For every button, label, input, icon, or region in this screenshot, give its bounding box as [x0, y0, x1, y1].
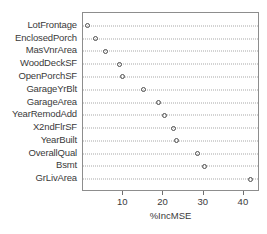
y-axis-label: Bsmt	[56, 160, 77, 170]
gridline-row	[83, 76, 258, 77]
variable-importance-chart: GrLivAreaBsmtOverallQualYearBuiltX2ndFlr…	[0, 0, 267, 234]
y-axis-label: MasVnrArea	[26, 45, 77, 55]
y-axis-label: GarageYrBlt	[26, 84, 77, 94]
data-point	[248, 177, 253, 182]
x-axis-tick	[122, 191, 123, 195]
data-point	[171, 126, 176, 131]
x-axis-title: %IncMSE	[82, 210, 259, 221]
y-axis-label: OpenPorchSF	[18, 71, 77, 81]
gridline-row	[83, 51, 258, 52]
y-axis-label: YearBuilt	[41, 135, 77, 145]
data-point	[85, 23, 90, 28]
data-point	[174, 138, 179, 143]
data-point	[156, 100, 161, 105]
gridline-row	[83, 166, 258, 167]
x-axis-tick-label: 10	[117, 196, 128, 207]
gridline-row	[83, 115, 258, 116]
gridline-row	[83, 64, 258, 65]
x-axis-tick-label: 20	[157, 196, 168, 207]
x-axis-tick-label: 30	[197, 196, 208, 207]
y-axis-label: GarageArea	[27, 97, 77, 107]
x-axis-tick-label: 40	[238, 196, 249, 207]
x-axis-tick	[243, 191, 244, 195]
gridline-row	[83, 140, 258, 141]
y-axis-label: GrLivArea	[36, 173, 77, 183]
plot-panel	[82, 12, 259, 191]
data-point	[141, 87, 146, 92]
data-point	[103, 49, 108, 54]
gridline-row	[83, 179, 258, 180]
plot-area	[83, 13, 258, 190]
y-axis-label: OverallQual	[28, 148, 77, 158]
data-point	[120, 74, 125, 79]
data-point	[195, 151, 200, 156]
data-point	[93, 36, 98, 41]
x-axis-tick	[162, 191, 163, 195]
y-axis-label: LotFrontage	[27, 20, 77, 30]
y-axis-label: WoodDeckSF	[20, 58, 77, 68]
y-axis-label: EnclosedPorch	[15, 33, 77, 43]
y-axis-label: X2ndFlrSF	[33, 122, 77, 132]
data-point	[117, 62, 122, 67]
gridline-row	[83, 89, 258, 90]
data-point	[162, 113, 167, 118]
gridline-row	[83, 25, 258, 26]
data-point	[202, 164, 207, 169]
y-axis-category-labels: GrLivAreaBsmtOverallQualYearBuiltX2ndFlr…	[0, 0, 80, 234]
gridline-row	[83, 153, 258, 154]
x-axis-tick	[203, 191, 204, 195]
gridline-row	[83, 102, 258, 103]
y-axis-label: YearRemodAdd	[12, 109, 77, 119]
gridline-row	[83, 38, 258, 39]
